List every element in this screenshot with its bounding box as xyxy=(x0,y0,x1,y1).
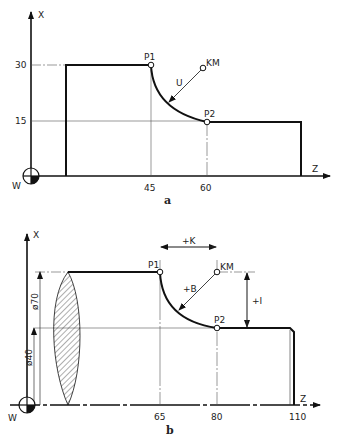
x-axis-label: X xyxy=(38,10,44,20)
workpiece-zero-icon xyxy=(23,168,39,184)
z-tick-80: 80 xyxy=(211,412,223,422)
caption-a: a xyxy=(164,194,171,207)
diameter-70-label: ø70 xyxy=(30,293,40,310)
cnc-arc-diagrams: X Z 30 15 45 60 P1 P2 KM U W a xyxy=(0,0,341,441)
point-p1 xyxy=(157,269,163,275)
z-axis-label: Z xyxy=(300,394,306,404)
x-tick-15: 15 xyxy=(15,116,26,126)
point-km xyxy=(214,269,220,275)
radius-label: U xyxy=(176,78,183,88)
radius-arrow xyxy=(169,70,201,102)
label-km: KM xyxy=(206,58,220,68)
point-p2 xyxy=(204,119,210,125)
z-tick-60: 60 xyxy=(200,183,212,193)
z-tick-45: 45 xyxy=(144,183,155,193)
z-tick-65: 65 xyxy=(154,412,165,422)
workpiece-zero-icon xyxy=(19,397,35,413)
cross-section-hatch xyxy=(54,272,80,405)
origin-label: W xyxy=(8,413,17,423)
workpiece-contour xyxy=(66,65,301,176)
caption-b: b xyxy=(166,424,174,437)
x-axis-label: X xyxy=(33,230,39,240)
diagram-b: X Z ø70 ø40 P1 P2 KM +K +I xyxy=(8,230,320,437)
z-axis-label: Z xyxy=(312,164,318,174)
label-km: KM xyxy=(220,262,234,272)
z-tick-110: 110 xyxy=(289,412,306,422)
x-tick-30: 30 xyxy=(15,60,27,70)
point-p1 xyxy=(148,62,154,68)
point-km xyxy=(200,65,206,71)
dim-k-label: +K xyxy=(182,236,197,246)
label-p1: P1 xyxy=(144,52,155,62)
diameter-40-label: ø40 xyxy=(24,349,34,366)
label-p2: P2 xyxy=(214,315,225,325)
label-p1: P1 xyxy=(148,260,159,270)
diagram-a: X Z 30 15 45 60 P1 P2 KM U W a xyxy=(12,10,330,207)
dim-i-label: +I xyxy=(252,296,262,306)
workpiece-contour xyxy=(68,272,294,405)
label-p2: P2 xyxy=(204,109,215,119)
radius-label: +B xyxy=(183,284,197,294)
origin-label: W xyxy=(12,181,21,191)
point-p2 xyxy=(214,325,220,331)
